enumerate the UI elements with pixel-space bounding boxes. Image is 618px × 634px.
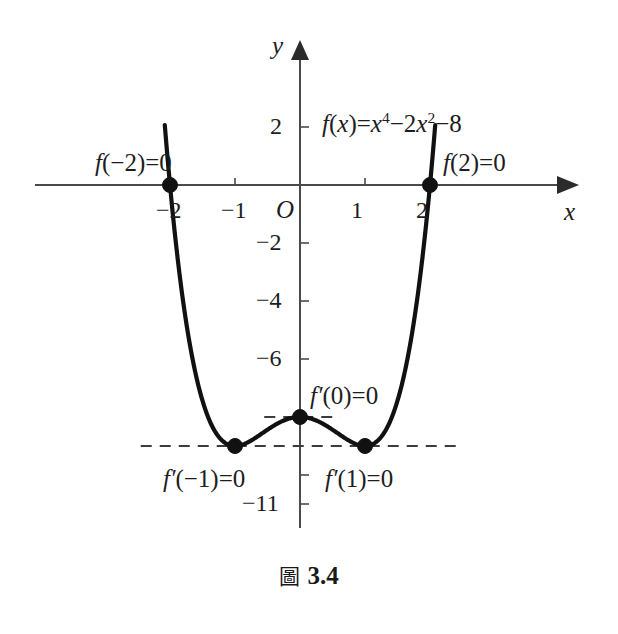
annotation-critical-left: f′(−1)=0	[163, 466, 245, 491]
critical-point	[358, 439, 373, 454]
caption-figure-number: 3.4	[307, 562, 338, 589]
root-point	[163, 178, 178, 193]
origin-label: O	[276, 197, 294, 222]
y-axis-arrowhead	[291, 40, 309, 60]
caption-figure-word: 圖	[279, 565, 300, 589]
x-tick-label: −1	[221, 198, 247, 222]
x-tick-label: 1	[351, 198, 363, 222]
y-tick-label: −11	[242, 491, 279, 515]
function-equation-label: f(x)=x4−2x2−8	[322, 110, 462, 136]
figure-container: f(x)=x4−2x2−8 x y O −2−1122−2−4−6−11 f(−…	[0, 0, 618, 634]
y-tick-label: −2	[256, 230, 282, 254]
function-plot	[0, 0, 618, 634]
figure-caption: 圖3.4	[0, 560, 618, 590]
y-axis-label: y	[272, 33, 283, 58]
y-tick-label: −6	[256, 346, 282, 370]
annotation-critical-right: f′(1)=0	[325, 466, 393, 491]
root-point	[423, 178, 438, 193]
axes-group	[35, 40, 579, 528]
annotation-critical-center: f′(0)=0	[310, 383, 378, 408]
critical-point	[293, 410, 308, 425]
x-tick-label: −2	[156, 198, 182, 222]
critical-point	[228, 439, 243, 454]
x-axis-arrowhead	[557, 176, 579, 194]
x-axis-label: x	[564, 199, 575, 224]
y-tick-label: 2	[270, 114, 282, 138]
x-tick-label: 2	[416, 198, 428, 222]
y-tick-label: −4	[256, 288, 282, 312]
annotation-root-left: f(−2)=0	[95, 150, 172, 175]
annotation-root-right: f(2)=0	[443, 150, 506, 175]
